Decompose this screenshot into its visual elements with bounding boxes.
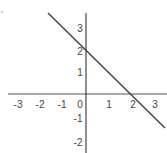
- x-tick-label: -3: [14, 99, 23, 110]
- line-series: [48, 13, 165, 128]
- y-tick-label: 2: [77, 46, 83, 57]
- x-tick-label: -1: [58, 99, 67, 110]
- x-tick-label: 2: [130, 99, 136, 110]
- y-tick-label: -1: [74, 113, 83, 124]
- y-tick-label: 1: [77, 67, 83, 78]
- x-tick-label: -2: [36, 99, 45, 110]
- y-tick-label: 3: [77, 23, 83, 34]
- x-tick-label: 1: [106, 99, 112, 110]
- stray-dot: [1, 11, 3, 13]
- coordinate-plane: -3 -2 -1 0 1 2 3 3 2 1 -1 -2: [0, 0, 167, 153]
- x-tick-label: 0: [77, 99, 83, 110]
- y-tick-label: -2: [74, 137, 83, 148]
- x-tick-label: 3: [152, 99, 158, 110]
